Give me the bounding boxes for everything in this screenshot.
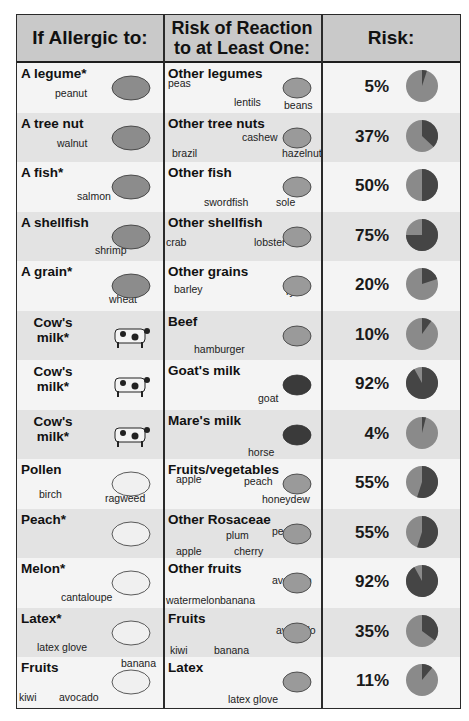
column-divider [163, 15, 165, 708]
allergen-name: Melon* [21, 561, 65, 576]
risk-cell: 92% [322, 558, 461, 608]
related-name: Fruits [168, 611, 206, 626]
risk-pie-chart [405, 614, 439, 648]
allergen-name: Cow's milk* [27, 315, 79, 345]
related-cell: Other legumespeaslentilsbeans [164, 63, 321, 113]
allergy-cross-reactivity-table: If Allergic to: Risk of Reaction to at L… [16, 14, 461, 709]
related-cell: Other shellfishcrablobster [164, 212, 321, 262]
table-row: Cow's milk*Beefhamburger10% [17, 311, 460, 361]
related-illustration-icon [282, 325, 312, 347]
risk-cell: 55% [322, 509, 461, 559]
related-item-label: goat [258, 392, 278, 404]
related-item-label: peach [244, 475, 273, 487]
risk-cell: 4% [322, 410, 461, 460]
allergen-illustration-icon [111, 224, 151, 250]
header-risk-of-reaction: Risk of Reaction to at Least One: [163, 15, 321, 61]
related-item-label: watermelon [166, 594, 220, 606]
pie-slice-risk [406, 565, 438, 597]
related-cell: Other grainsbarleyrye [164, 261, 321, 311]
risk-pie-chart [405, 168, 439, 202]
risk-cell: 37% [322, 113, 461, 163]
related-item-label: banana [220, 594, 255, 606]
risk-cell: 50% [322, 162, 461, 212]
risk-pie-chart [405, 218, 439, 252]
risk-pie-chart [405, 69, 439, 103]
risk-percent-label: 10% [355, 325, 389, 345]
related-cell: Beefhamburger [164, 311, 321, 361]
risk-percent-label: 20% [355, 275, 389, 295]
risk-percent-label: 5% [364, 77, 389, 97]
allergen-name: A fish* [21, 165, 63, 180]
related-item-label: beans [284, 99, 313, 111]
related-item-label: apple [176, 545, 202, 557]
related-cell: Other fishswordfishsole [164, 162, 321, 212]
table-row: A grain*wheatOther grainsbarleyrye20% [17, 261, 460, 311]
related-item-label: peas [168, 77, 191, 89]
related-name: Other Rosaceae [168, 512, 271, 527]
allergen-item-label: salmon [77, 190, 111, 202]
allergen-cell: A legume*peanut [17, 63, 163, 113]
table-row: Latex*latex gloveFruitskiwibananaavocado… [17, 608, 460, 658]
risk-cell: 10% [322, 311, 461, 361]
cow-icon [111, 323, 151, 349]
related-item-label: plum [226, 529, 249, 541]
table-header: If Allergic to: Risk of Reaction to at L… [17, 15, 460, 63]
risk-percent-label: 92% [355, 572, 389, 592]
related-item-label: banana [214, 644, 249, 656]
risk-cell: 92% [322, 360, 461, 410]
risk-percent-label: 55% [355, 473, 389, 493]
table-row: Cow's milk*Goat's milkgoat92% [17, 360, 460, 410]
related-cell: Other tree nutsbrazilcashewhazelnut [164, 113, 321, 163]
risk-pie-chart [405, 416, 439, 450]
cow-icon [111, 422, 151, 448]
related-item-label: swordfish [204, 196, 248, 208]
table-row: A legume*peanutOther legumespeaslentilsb… [17, 63, 460, 113]
related-cell: Other fruitswatermelonbananaavocado [164, 558, 321, 608]
risk-cell: 11% [322, 657, 461, 707]
table-row: PollenbirchragweedFruits/vegetablesapple… [17, 459, 460, 509]
allergen-name: Pollen [21, 462, 62, 477]
allergen-name: Peach* [21, 512, 66, 527]
allergen-name: A shellfish [21, 215, 89, 230]
related-item-label: apple [176, 473, 202, 485]
related-illustration-icon [282, 275, 312, 297]
related-illustration-icon [282, 424, 312, 446]
allergen-illustration-icon [111, 471, 151, 497]
allergen-cell: Pollenbirchragweed [17, 459, 163, 509]
allergen-name: A grain* [21, 264, 72, 279]
related-illustration-icon [282, 127, 312, 149]
allergen-illustration-icon [111, 125, 151, 151]
risk-pie-chart [405, 564, 439, 598]
related-name: Other fruits [168, 561, 242, 576]
allergen-name: A tree nut [21, 116, 84, 131]
related-name: Other shellfish [168, 215, 263, 230]
related-illustration-icon [282, 473, 312, 495]
related-item-label: latex glove [228, 693, 278, 705]
related-item-label: brazil [172, 147, 197, 159]
table-row: A tree nutwalnutOther tree nutsbrazilcas… [17, 113, 460, 163]
risk-percent-label: 50% [355, 176, 389, 196]
table-row: A fish*salmonOther fishswordfishsole50% [17, 162, 460, 212]
allergen-illustration-icon [111, 273, 151, 299]
related-item-label: horse [248, 446, 274, 458]
risk-cell: 20% [322, 261, 461, 311]
allergen-illustration-icon [111, 669, 151, 695]
risk-pie-chart [405, 663, 439, 697]
related-illustration-icon [282, 226, 312, 248]
risk-cell: 5% [322, 63, 461, 113]
related-illustration-icon [282, 523, 312, 545]
related-illustration-icon [282, 671, 312, 693]
risk-percent-label: 55% [355, 523, 389, 543]
table-row: Melon*cantaloupeOther fruitswatermelonba… [17, 558, 460, 608]
allergen-cell: Cow's milk* [17, 311, 163, 361]
risk-percent-label: 37% [355, 127, 389, 147]
risk-percent-label: 75% [355, 226, 389, 246]
allergen-illustration-icon [111, 521, 151, 547]
cow-icon [111, 372, 151, 398]
header-risk: Risk: [321, 15, 461, 61]
allergen-name: Latex* [21, 611, 62, 626]
allergen-item-label: banana [121, 657, 156, 669]
related-name: Other tree nuts [168, 116, 265, 131]
table-row: Cow's milk*Mare's milkhorse4% [17, 410, 460, 460]
allergen-item-label: cantaloupe [61, 591, 112, 603]
